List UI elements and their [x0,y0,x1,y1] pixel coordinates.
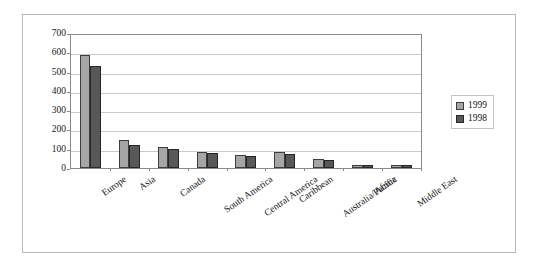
bar-1999[interactable] [197,152,208,168]
legend-label: 1998 [468,114,487,124]
bar-group [382,35,421,168]
bar-1999[interactable] [119,140,130,168]
y-axis-tick-label: 300 [52,106,66,116]
bar-1998[interactable] [90,66,101,168]
chart-legend: 19991998 [451,95,494,129]
bar-1999[interactable] [235,155,246,169]
y-axis-tick-label: 400 [52,87,66,97]
legend-item[interactable]: 1999 [456,99,487,112]
y-axis-tick-label: 100 [52,145,66,155]
bar-1999[interactable] [274,152,285,168]
bar-group [227,35,266,168]
x-axis-label: Middle East [415,174,459,209]
bar-group [304,35,343,168]
y-axis-tick-label: 500 [52,68,66,78]
legend-swatch-icon [456,115,464,123]
bar-group [71,35,110,168]
bar-1999[interactable] [352,165,363,168]
x-axis-label: Africa [372,174,398,196]
bar-1998[interactable] [402,165,413,168]
bar-group [265,35,304,168]
y-axis-tick-labels: 0100200300400500600700 [23,34,66,169]
x-axis-label: Asia [137,174,157,192]
x-axis-category-labels: EuropeAsiaCanadaSouth AmericaCentral Ame… [70,170,422,254]
bar-1998[interactable] [168,149,179,168]
bar-1998[interactable] [207,153,218,168]
bars-layer [71,35,421,168]
bar-group [149,35,188,168]
bar-1999[interactable] [80,55,91,168]
y-axis-tick-label: 700 [52,29,66,39]
x-axis-label: Europe [100,174,128,198]
legend-item[interactable]: 1998 [456,112,487,125]
bar-1999[interactable] [313,159,324,168]
legend-label: 1999 [468,101,487,111]
bar-group [110,35,149,168]
bar-1999[interactable] [391,165,402,168]
plot-area [70,34,422,169]
bar-group [188,35,227,168]
y-axis-tick-label: 0 [61,164,66,174]
bar-1998[interactable] [363,165,374,168]
bar-1998[interactable] [324,160,335,168]
bar-1999[interactable] [158,147,169,168]
x-axis-label: Canada [178,174,207,199]
y-axis-tick-label: 200 [52,125,66,135]
bar-1998[interactable] [246,156,257,168]
y-axis-tick-label: 600 [52,48,66,58]
bar-group [343,35,382,168]
legend-swatch-icon [456,102,464,110]
bar-1998[interactable] [285,154,296,168]
chart-frame: 0100200300400500600700 EuropeAsiaCanadaS… [22,14,516,253]
bar-1998[interactable] [129,145,140,168]
